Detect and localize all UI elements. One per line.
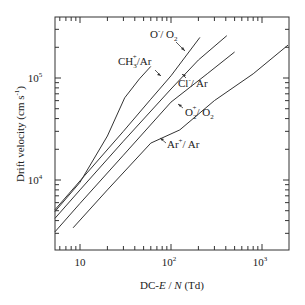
- x-axis-ticks: [60, 17, 262, 250]
- x-tick-label-1000: 103: [253, 255, 268, 268]
- x-tick-label-100: 102: [162, 255, 177, 268]
- annotation-cl-minus-ar: Cl-/ Ar: [178, 74, 208, 89]
- annotation-ar-plus-ar: Ar+/ Ar: [160, 137, 200, 150]
- annotation-o-minus-o2: O-/ O2: [150, 27, 185, 51]
- x-axis-title: DC-E / N (Td): [140, 279, 204, 292]
- svg-text:O-/ O2: O-/ O2: [150, 27, 178, 43]
- curve-3: [55, 52, 235, 232]
- annotation-o2-plus-o2: O2+/ O2: [178, 104, 214, 121]
- y-tick-label-1e5: 105: [28, 71, 43, 84]
- svg-text:O2+/ O2: O2+/ O2: [185, 104, 214, 121]
- y-axis-title: Drift velocity (cm s-1): [13, 86, 27, 182]
- y-axis-ticks: [55, 29, 289, 233]
- svg-text:Cl-/ Ar: Cl-/ Ar: [178, 76, 208, 89]
- x-tick-label-10: 10: [75, 256, 87, 268]
- curve-1: [55, 66, 151, 211]
- y-tick-label-1e4: 104: [28, 173, 43, 186]
- annotation-ch3-plus-ar: CH3+/Ar: [118, 53, 161, 76]
- svg-text:CH3+/Ar: CH3+/Ar: [118, 53, 152, 70]
- data-curves: [55, 36, 288, 232]
- drift-velocity-chart: 10 102 103 104 105 DC-E / N (Td) Drift v…: [0, 0, 305, 305]
- svg-text:Ar+/ Ar: Ar+/ Ar: [167, 137, 200, 150]
